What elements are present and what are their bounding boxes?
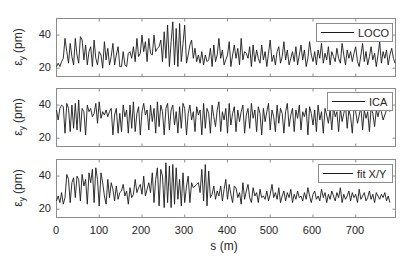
ytick-label-20: 20: [39, 131, 51, 143]
legend-label: fit X/Y: [357, 168, 387, 180]
legend-label: LOCO: [358, 27, 390, 39]
panel-fit-xy: 40 20 εy(pm) fit X/Y: [11, 160, 396, 218]
ylabel: εy(pm): [11, 169, 27, 207]
ylabel: εy(pm): [11, 28, 27, 66]
xlabel: s (m): [210, 239, 237, 253]
xtick-label-200: 200: [132, 224, 150, 236]
legend-loco: LOCO: [317, 24, 393, 42]
ylabel-unit: (pm): [11, 169, 25, 194]
svg-text:εy(pm): εy(pm): [11, 98, 27, 136]
panel-loco: 40 20 εy(pm) LOCO: [11, 19, 396, 77]
xtick-label-600: 600: [303, 224, 321, 236]
xtick-label-500: 500: [260, 224, 278, 236]
panel-ica: 40 20 εy(pm) ICA: [11, 89, 396, 147]
ytick-label-40: 40: [39, 28, 51, 40]
ylabel-subscript: y: [17, 125, 27, 130]
xtick-label-100: 100: [90, 224, 108, 236]
legend-fit-xy: fit X/Y: [319, 165, 393, 183]
ylabel: εy(pm): [11, 98, 27, 136]
svg-text:εy(pm): εy(pm): [11, 28, 27, 66]
xtick-labels: 0 100 200 300 400 500 600 700: [53, 224, 364, 236]
figure: 40 20 εy(pm) LOCO 40 20 εy(pm) ICA: [0, 0, 414, 267]
ylabel-subscript: y: [17, 196, 27, 201]
ytick-label-20: 20: [39, 61, 51, 73]
ylabel-subscript: y: [17, 55, 27, 60]
ytick-label-20: 20: [39, 202, 51, 214]
ylabel-unit: (pm): [11, 98, 25, 123]
legend-ica: ICA: [328, 93, 393, 111]
xtick-label-400: 400: [218, 224, 236, 236]
ylabel-unit: (pm): [11, 28, 25, 53]
xtick-label-0: 0: [53, 224, 59, 236]
xtick-label-700: 700: [346, 224, 364, 236]
ytick-label-40: 40: [39, 98, 51, 110]
svg-text:εy(pm): εy(pm): [11, 169, 27, 207]
xtick-label-300: 300: [175, 224, 193, 236]
legend-label: ICA: [369, 96, 388, 108]
ytick-label-40: 40: [39, 169, 51, 181]
